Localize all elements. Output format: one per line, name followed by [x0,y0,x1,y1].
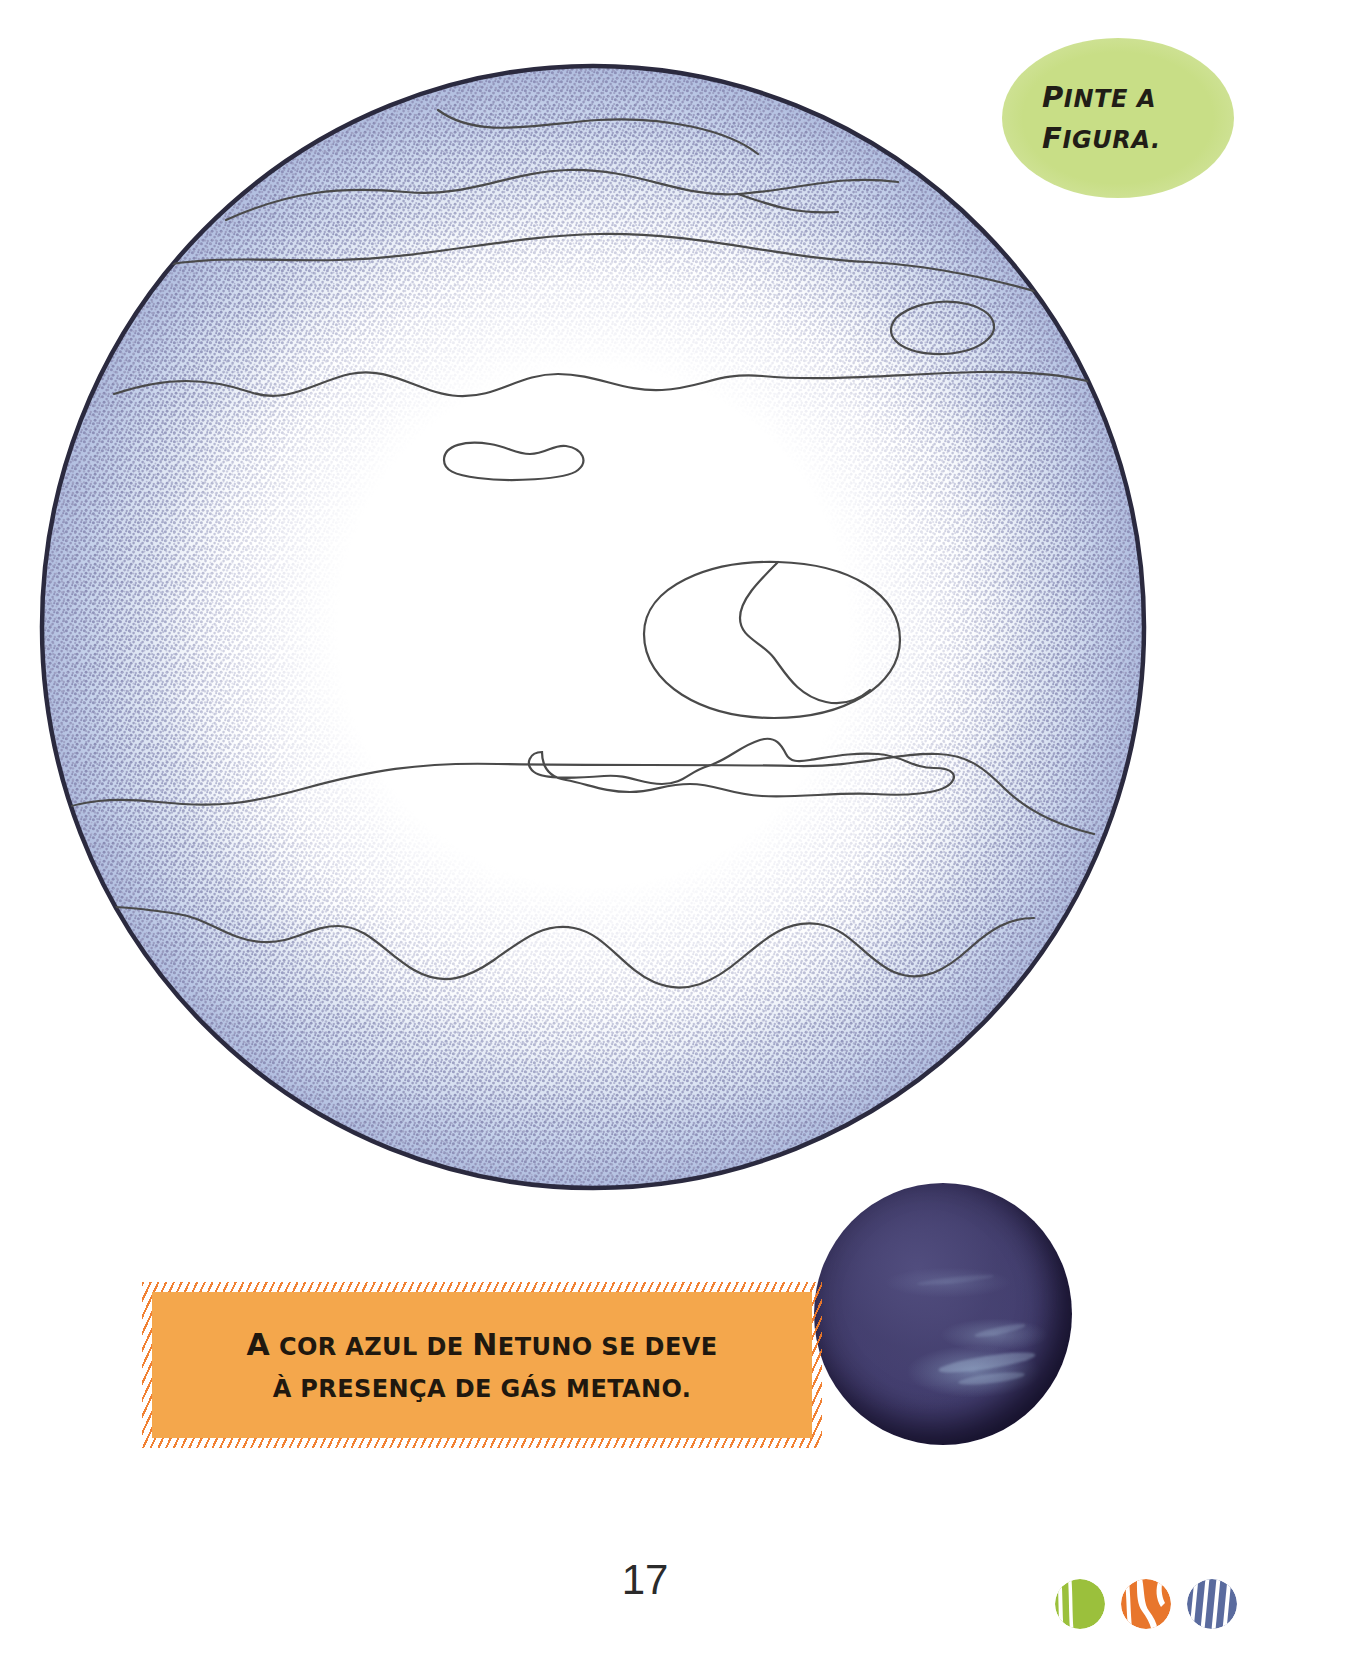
instruction-line-1: PINTE A [1042,77,1156,118]
neptune-outline-drawing [38,62,1148,1192]
instruction-badge: PINTE A FIGURA. [1002,38,1234,198]
neptune-fact-box: A COR AZUL DE NETUNO SE DEVE À PRESENÇA … [152,1292,812,1438]
fact-line-2: À PRESENÇA DE GÁS METANO. [273,1370,692,1409]
instruction-line-1-initial: P [1042,80,1064,114]
green-brush-circle-icon [1055,1579,1105,1629]
blue-brush-circle-icon [1187,1579,1237,1629]
fact-box-panel: A COR AZUL DE NETUNO SE DEVE À PRESENÇA … [152,1292,812,1438]
fact-line-1: A COR AZUL DE NETUNO SE DEVE [247,1321,718,1370]
neptune-photograph [814,1183,1072,1445]
cloud-streak-2 [958,1370,1026,1387]
instruction-line-2-rest: IGURA. [1062,126,1160,154]
coloring-book-page: PINTE A FIGURA. A COR AZUL DE NETUNO SE … [0,0,1370,1662]
fact-line-1-rest: ETUNO SE DEVE [498,1333,718,1361]
instruction-line-2: FIGURA. [1042,118,1161,159]
instruction-line-2-initial: F [1042,121,1062,155]
badge-text-group: PINTE A FIGURA. [1002,38,1234,198]
orange-brush-circle-icon [1121,1579,1171,1629]
fact-line-1-mid: COR AZUL DE [270,1333,472,1361]
publisher-logo [1055,1576,1255,1632]
instruction-line-1-rest: INTE A [1064,85,1156,113]
fact-line-1-initial-netuno: N [472,1327,498,1362]
cloud-streak-4 [917,1273,995,1287]
cloud-streak-3 [974,1322,1026,1339]
fact-line-1-initial: A [247,1327,271,1362]
